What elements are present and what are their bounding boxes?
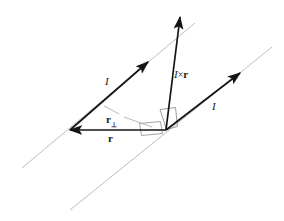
vector-current-right [166, 73, 240, 130]
perpendicular-icon: ⊥ [111, 121, 117, 129]
label-r-perpendicular: r⊥ [106, 110, 117, 129]
diagram-canvas [0, 0, 284, 221]
label-current-left: I [105, 76, 109, 87]
label-cross-product-operand-second: r [183, 68, 188, 80]
label-cross-product: I×r [174, 65, 188, 81]
leader-line-perpendicular [124, 117, 152, 127]
label-current-right: I [212, 101, 216, 112]
label-separation: r [108, 133, 113, 144]
vector-diagram-figure: I I I×r r⊥ r [0, 0, 284, 221]
